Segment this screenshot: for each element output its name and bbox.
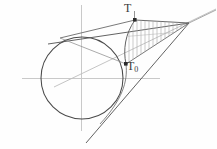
marker-point-T (133, 18, 137, 22)
arc-T-to-T0 (125, 20, 135, 64)
label-T0-subscript: 0 (134, 65, 138, 74)
apex-extension-group (189, 10, 216, 23)
figure-canvas (0, 0, 217, 149)
apex-extension-ray (189, 10, 216, 23)
lower-tangent-line (86, 23, 189, 143)
label-point-T: T (124, 2, 131, 14)
chord-T0-to-apex (126, 23, 189, 64)
upper-tangent-line (48, 23, 189, 44)
geometry-figure: T T0 (0, 0, 217, 149)
label-point-T0: T0 (127, 60, 138, 72)
tangent-lines-group (48, 23, 189, 143)
chord-T-to-apex (135, 20, 189, 23)
chord-upper-left-to-T (60, 20, 135, 38)
chord-upperleft-to-T0 (60, 38, 126, 64)
construction-lines-group (60, 11, 189, 124)
